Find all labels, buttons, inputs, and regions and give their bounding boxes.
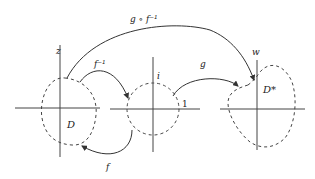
unit-disk-plane: i 1 [110,57,200,152]
region-d-boundary [41,78,96,145]
arrow-g-compose-f-inverse [67,26,254,80]
region-d-star-label: D* [262,84,276,95]
w-plane-label: w [252,47,260,57]
region-d-label: D [66,119,75,130]
w-plane: w D* [220,47,305,150]
region-d-star-boundary [228,65,295,147]
z-plane-label: z [55,46,61,56]
arrow-g [173,79,238,96]
arrow-g-label: g [200,59,206,69]
z-plane: z D [15,45,100,157]
one-tick-label: 1 [182,99,188,109]
arrow-f [82,130,132,154]
arrow-f-inverse [80,71,128,98]
arrow-g-compose-f-inverse-label: g ∘ f⁻¹ [130,14,158,24]
diagram-canvas: z D i 1 w D* g ∘ f⁻¹ f⁻¹ g f [0,0,315,179]
arrow-f-label: f [105,162,111,172]
arrow-f-inverse-label: f⁻¹ [93,59,106,69]
i-label: i [157,71,160,81]
